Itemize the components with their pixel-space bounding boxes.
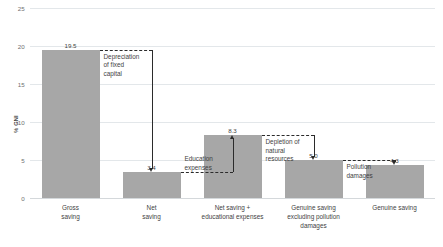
- annotation-arrowhead: [311, 156, 315, 160]
- annotation-dashed-line: [262, 135, 314, 136]
- annotation-label: Education expenses: [185, 155, 213, 172]
- category-label: Gross saving: [30, 203, 111, 221]
- category-label: Genuine saving: [354, 203, 435, 212]
- annotation-label: Depreciation of fixed capital: [104, 53, 140, 79]
- annotation-connector: [314, 135, 315, 157]
- y-tick-label-15: 15: [18, 81, 25, 88]
- annotation-label: Depletion of natural resources: [266, 138, 300, 164]
- gridline-0: [30, 198, 435, 199]
- bar-value-label: 8.3: [228, 127, 237, 134]
- genuine-saving-bar-chart: % GNI 0510152025 19.53.48.35.04.3 Deprec…: [0, 0, 443, 247]
- annotation-connector: [152, 50, 153, 169]
- y-tick-label-0: 0: [21, 195, 25, 202]
- y-tick-label-20: 20: [18, 43, 25, 50]
- annotation-dashed-line: [343, 160, 395, 161]
- category-label: Net saving: [111, 203, 192, 221]
- annotation-connector: [233, 138, 234, 172]
- annotation-label: Pollution damages: [347, 163, 373, 180]
- bar-value-label: 19.5: [64, 42, 76, 49]
- bar[interactable]: 5.0: [285, 160, 343, 198]
- category-label: Genuine saving excluding pollution damag…: [273, 203, 354, 230]
- y-tick-label-25: 25: [18, 5, 25, 12]
- category-label: Net saving + educational expenses: [192, 203, 273, 221]
- gridline-25: [30, 8, 435, 9]
- gridline-20: [30, 46, 435, 47]
- annotation-arrowhead: [149, 168, 153, 172]
- annotation-arrowhead: [392, 161, 396, 165]
- bar[interactable]: 19.5: [42, 50, 100, 198]
- annotation-arrowhead: [230, 135, 234, 139]
- annotation-dashed-line: [100, 50, 152, 51]
- bar[interactable]: 4.3: [366, 165, 424, 198]
- plot-area: 0510152025 19.53.48.35.04.3 Depreciation…: [30, 8, 435, 198]
- y-tick-label-5: 5: [21, 157, 25, 164]
- bar[interactable]: 3.4: [123, 172, 181, 198]
- y-tick-label-10: 10: [18, 119, 25, 126]
